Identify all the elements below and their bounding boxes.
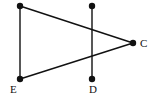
point-a [17,3,23,9]
label-c: C [140,37,147,49]
label-e: E [10,83,17,94]
label-d: D [89,83,97,94]
segment-e-c [20,43,133,79]
segment-a-c [20,6,133,43]
point-e [17,76,23,82]
point-b [89,3,95,9]
geometry-diagram: C D E [0,0,148,94]
point-d [89,76,95,82]
point-c [130,40,136,46]
